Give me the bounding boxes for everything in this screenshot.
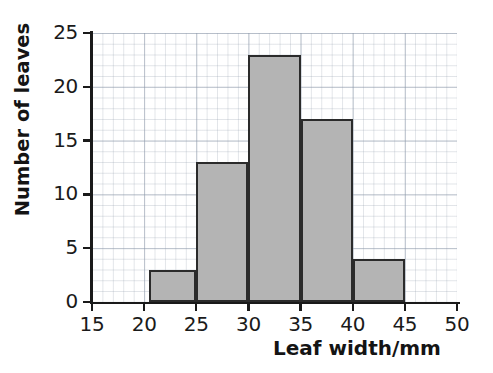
y-axis-tick [83,139,92,141]
x-axis-tick-label: 35 [279,312,323,336]
x-axis-tick [456,302,458,311]
y-axis-line [90,31,93,304]
histogram-bar [301,119,353,302]
y-axis-tick [83,247,92,249]
y-axis-tick [83,193,92,195]
x-axis-tick [91,302,93,311]
y-axis-tick [83,32,92,34]
x-axis-tick [247,302,249,311]
x-axis-tick [352,302,354,311]
x-axis-tick [143,302,145,311]
histogram-bar [353,259,405,302]
x-axis-tick [404,302,406,311]
x-axis-tick-label: 20 [122,312,166,336]
x-axis-tick-label: 40 [331,312,375,336]
y-axis-tick-label: 10 [42,181,78,205]
x-axis-tick-label: 50 [435,312,479,336]
y-axis-tick-label: 0 [42,289,78,313]
histogram-bar [149,270,196,302]
x-axis-tick [299,302,301,311]
y-axis-tick [83,86,92,88]
histogram-chart: Number of leaves 05101520251520253035404… [0,0,493,373]
x-axis-tick-label: 25 [174,312,218,336]
y-axis-tick-label: 15 [42,128,78,152]
y-axis-title: Number of leaves [11,20,34,220]
x-axis-tick-label: 15 [70,312,114,336]
x-axis-tick-label: 30 [226,312,270,336]
x-axis-title: Leaf width/mm [228,336,486,360]
histogram-bar [196,162,248,302]
plot-area [92,33,457,302]
y-axis-tick-label: 25 [42,20,78,44]
x-axis-tick-label: 45 [383,312,427,336]
y-axis-tick-label: 5 [42,235,78,259]
x-axis-tick [195,302,197,311]
y-axis-tick-label: 20 [42,74,78,98]
histogram-bar [248,55,300,302]
